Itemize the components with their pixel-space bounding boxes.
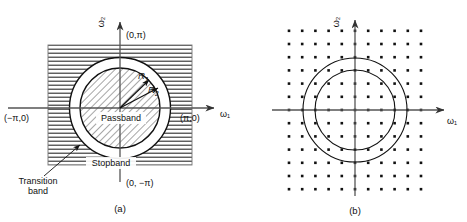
grid-dot (367, 30, 370, 33)
grid-dot (380, 56, 383, 59)
grid-dot (420, 82, 423, 85)
grid-dot (407, 148, 410, 151)
grid-dot (420, 135, 423, 138)
panel-a-point-right: (π,0) (180, 113, 200, 123)
grid-dot (367, 43, 370, 46)
grid-dot (314, 135, 317, 138)
grid-dot (380, 82, 383, 85)
grid-dot (380, 188, 383, 191)
grid-dot (327, 56, 330, 59)
grid-dot (327, 162, 330, 165)
grid-dot (288, 188, 291, 191)
grid-dot (407, 175, 410, 178)
grid-dot (314, 30, 317, 33)
grid-dot (407, 69, 410, 72)
grid-dot (341, 162, 344, 165)
grid-dot (341, 82, 344, 85)
grid-dot (288, 43, 291, 46)
grid-dot (367, 148, 370, 151)
grid-dot (327, 175, 330, 178)
grid-dot (341, 188, 344, 191)
radius-label-r2-sub: 2 (154, 90, 159, 97)
grid-dot (393, 135, 396, 138)
passband-label-group: Passband (96, 112, 146, 124)
grid-dot (380, 96, 383, 99)
panel-a-yaxis-label: ω₂ (96, 16, 106, 27)
grid-dot (393, 30, 396, 33)
grid-dot (288, 56, 291, 59)
grid-dot (301, 188, 304, 191)
grid-dot (420, 69, 423, 72)
stopband-label: Stopband (92, 158, 131, 168)
grid-dot (380, 69, 383, 72)
grid-dot (301, 175, 304, 178)
grid-dot (288, 122, 291, 125)
grid-dot (341, 43, 344, 46)
grid-dot (314, 96, 317, 99)
grid-dot (407, 82, 410, 85)
grid-dot (288, 148, 291, 151)
grid-dot (407, 30, 410, 33)
grid-dot (393, 56, 396, 59)
grid-dot (327, 135, 330, 138)
grid-dot (420, 148, 423, 151)
grid-dot (393, 96, 396, 99)
grid-dot (314, 175, 317, 178)
panel-b-xaxis-label: ω₁ (447, 116, 457, 126)
grid-dot (407, 135, 410, 138)
grid-dot (380, 148, 383, 151)
grid-dot (367, 56, 370, 59)
figure-root: ω₂ ω₁ (0,π) (0, −π) (−π,0) (π,0) R 1 R 2… (0, 0, 467, 222)
transition-band-label-line1: Transition (18, 176, 57, 186)
panel-a: ω₂ ω₁ (0,π) (0, −π) (−π,0) (π,0) R 1 R 2… (0, 0, 234, 222)
grid-dot (420, 43, 423, 46)
panel-a-caption: (a) (114, 203, 126, 214)
grid-dot (420, 175, 423, 178)
grid-dot (367, 175, 370, 178)
grid-dot (341, 69, 344, 72)
grid-dot (301, 162, 304, 165)
grid-dot (327, 122, 330, 125)
grid-dot (301, 30, 304, 33)
grid-dot (288, 175, 291, 178)
grid-dot (314, 122, 317, 125)
grid-dot (407, 43, 410, 46)
grid-dot (301, 148, 304, 151)
grid-dot (314, 162, 317, 165)
grid-dot (341, 56, 344, 59)
grid-dot (407, 122, 410, 125)
panel-a-point-bottom: (0, −π) (126, 178, 153, 188)
grid-dot (314, 82, 317, 85)
transition-band-label: Transition band (18, 176, 57, 196)
grid-dot (314, 69, 317, 72)
grid-dot (407, 188, 410, 191)
grid-dot (407, 96, 410, 99)
grid-dot (393, 188, 396, 191)
grid-dot (380, 30, 383, 33)
grid-dot (393, 148, 396, 151)
radius-label-r1-base: R (138, 70, 145, 81)
panel-a-xaxis-label: ω₁ (220, 109, 230, 119)
grid-dot (341, 96, 344, 99)
grid-dot (314, 188, 317, 191)
grid-dot (407, 56, 410, 59)
grid-dot (301, 122, 304, 125)
grid-dot (393, 43, 396, 46)
grid-dot (367, 82, 370, 85)
grid-dot (367, 69, 370, 72)
grid-dot (407, 162, 410, 165)
grid-dot (341, 135, 344, 138)
grid-dot (420, 162, 423, 165)
grid-dot (301, 82, 304, 85)
radius-label-r1-sub: 1 (145, 76, 149, 83)
grid-dot (327, 188, 330, 191)
grid-dot (420, 188, 423, 191)
grid-dot (420, 96, 423, 99)
grid-dot (393, 162, 396, 165)
grid-dot (380, 43, 383, 46)
panel-a-point-left: (−π,0) (4, 113, 29, 123)
grid-dot (367, 162, 370, 165)
grid-dot (367, 135, 370, 138)
transition-band-label-line2: band (28, 186, 48, 196)
grid-dot (367, 96, 370, 99)
